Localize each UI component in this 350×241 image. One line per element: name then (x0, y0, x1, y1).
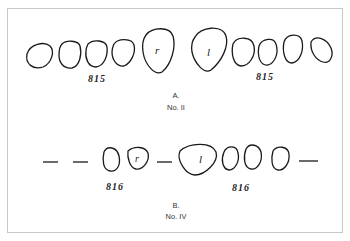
tooth-b-7 (244, 145, 261, 169)
figure-a-label-left: 815 (88, 73, 106, 84)
tooth-a-r-label: r (155, 44, 160, 56)
tooth-a-7 (258, 39, 277, 65)
tooth-a-2 (59, 41, 81, 68)
tooth-a-l-label: l (207, 46, 210, 58)
tooth-b-8 (272, 147, 289, 170)
figure-a-caption-letter: A. (146, 91, 206, 100)
figure-b-caption-number: No. IV (146, 212, 206, 221)
tooth-b-l-label: l (199, 153, 202, 165)
tooth-b-r-label: r (135, 153, 139, 164)
figure-b-label-left: 816 (106, 181, 124, 192)
figure-a-label-right: 815 (256, 71, 274, 82)
tooth-b-l (179, 144, 216, 175)
figure-a-caption-number: No. II (146, 103, 206, 112)
tooth-a-9 (311, 38, 332, 62)
figure-b-caption-letter: B. (146, 201, 206, 210)
tooth-b-6 (222, 147, 238, 170)
figure-b-label-right: 816 (232, 182, 250, 193)
tooth-a-8 (283, 35, 302, 63)
tooth-a-1 (27, 44, 53, 68)
tooth-a-4 (112, 40, 134, 66)
tooth-a-3 (86, 41, 107, 67)
tooth-b-1 (103, 148, 119, 171)
tooth-a-6 (232, 38, 254, 66)
